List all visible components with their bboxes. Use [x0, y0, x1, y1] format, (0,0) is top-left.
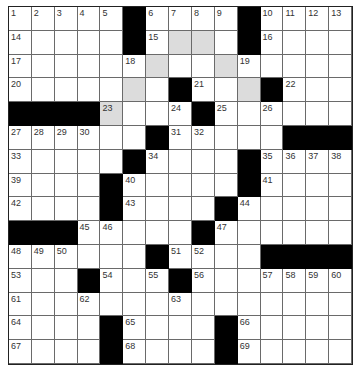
- answer-cell[interactable]: [261, 197, 284, 221]
- answer-cell[interactable]: [283, 31, 306, 55]
- answer-cell[interactable]: 6: [146, 7, 169, 31]
- answer-cell[interactable]: 42: [9, 197, 32, 221]
- answer-cell[interactable]: [283, 221, 306, 245]
- answer-cell[interactable]: [329, 55, 352, 79]
- answer-cell[interactable]: 50: [55, 245, 78, 269]
- answer-cell[interactable]: [215, 269, 238, 293]
- answer-cell[interactable]: [306, 55, 329, 79]
- answer-cell[interactable]: [238, 293, 261, 317]
- answer-cell[interactable]: 55: [146, 269, 169, 293]
- answer-cell[interactable]: 40: [123, 174, 146, 198]
- answer-cell[interactable]: [55, 316, 78, 340]
- shaded-answer-cell[interactable]: [123, 78, 146, 102]
- answer-cell[interactable]: [329, 316, 352, 340]
- answer-cell[interactable]: [192, 150, 215, 174]
- answer-cell[interactable]: 43: [123, 197, 146, 221]
- answer-cell[interactable]: [55, 150, 78, 174]
- answer-cell[interactable]: 16: [261, 31, 284, 55]
- answer-cell[interactable]: [123, 293, 146, 317]
- answer-cell[interactable]: 11: [283, 7, 306, 31]
- answer-cell[interactable]: [146, 78, 169, 102]
- answer-cell[interactable]: 49: [32, 245, 55, 269]
- answer-cell[interactable]: [169, 340, 192, 364]
- answer-cell[interactable]: [32, 55, 55, 79]
- answer-cell[interactable]: [169, 150, 192, 174]
- answer-cell[interactable]: [215, 293, 238, 317]
- answer-cell[interactable]: 35: [261, 150, 284, 174]
- answer-cell[interactable]: [32, 316, 55, 340]
- answer-cell[interactable]: 27: [9, 126, 32, 150]
- answer-cell[interactable]: 3: [55, 7, 78, 31]
- answer-cell[interactable]: [55, 55, 78, 79]
- answer-cell[interactable]: 59: [306, 269, 329, 293]
- answer-cell[interactable]: 38: [329, 150, 352, 174]
- answer-cell[interactable]: [100, 150, 123, 174]
- answer-cell[interactable]: [283, 55, 306, 79]
- answer-cell[interactable]: [215, 126, 238, 150]
- answer-cell[interactable]: [238, 245, 261, 269]
- answer-cell[interactable]: 29: [55, 126, 78, 150]
- answer-cell[interactable]: 5: [100, 7, 123, 31]
- answer-cell[interactable]: [215, 150, 238, 174]
- answer-cell[interactable]: [329, 102, 352, 126]
- answer-cell[interactable]: 48: [9, 245, 32, 269]
- answer-cell[interactable]: [123, 126, 146, 150]
- answer-cell[interactable]: 68: [123, 340, 146, 364]
- answer-cell[interactable]: [283, 340, 306, 364]
- answer-cell[interactable]: [329, 221, 352, 245]
- answer-cell[interactable]: 12: [306, 7, 329, 31]
- answer-cell[interactable]: [55, 293, 78, 317]
- answer-cell[interactable]: 21: [192, 78, 215, 102]
- answer-cell[interactable]: [78, 340, 101, 364]
- answer-cell[interactable]: [283, 174, 306, 198]
- answer-cell[interactable]: 53: [9, 269, 32, 293]
- answer-cell[interactable]: [55, 174, 78, 198]
- answer-cell[interactable]: 20: [9, 78, 32, 102]
- answer-cell[interactable]: [78, 316, 101, 340]
- answer-cell[interactable]: [78, 31, 101, 55]
- answer-cell[interactable]: 4: [78, 7, 101, 31]
- answer-cell[interactable]: [146, 102, 169, 126]
- answer-cell[interactable]: [32, 31, 55, 55]
- answer-cell[interactable]: 45: [78, 221, 101, 245]
- answer-cell[interactable]: [329, 31, 352, 55]
- answer-cell[interactable]: [261, 293, 284, 317]
- answer-cell[interactable]: [78, 55, 101, 79]
- answer-cell[interactable]: [283, 102, 306, 126]
- answer-cell[interactable]: 60: [329, 269, 352, 293]
- answer-cell[interactable]: [78, 78, 101, 102]
- answer-cell[interactable]: [146, 340, 169, 364]
- answer-cell[interactable]: [100, 293, 123, 317]
- answer-cell[interactable]: [215, 245, 238, 269]
- answer-cell[interactable]: [55, 197, 78, 221]
- answer-cell[interactable]: [169, 197, 192, 221]
- answer-cell[interactable]: 25: [215, 102, 238, 126]
- answer-cell[interactable]: 14: [9, 31, 32, 55]
- answer-cell[interactable]: [32, 150, 55, 174]
- answer-cell[interactable]: 64: [9, 316, 32, 340]
- answer-cell[interactable]: 47: [215, 221, 238, 245]
- answer-cell[interactable]: [261, 221, 284, 245]
- answer-cell[interactable]: 62: [78, 293, 101, 317]
- answer-cell[interactable]: [123, 269, 146, 293]
- answer-cell[interactable]: [146, 221, 169, 245]
- answer-cell[interactable]: [192, 174, 215, 198]
- shaded-answer-cell[interactable]: [215, 55, 238, 79]
- answer-cell[interactable]: [329, 174, 352, 198]
- answer-cell[interactable]: [169, 55, 192, 79]
- answer-cell[interactable]: 18: [123, 55, 146, 79]
- answer-cell[interactable]: [329, 340, 352, 364]
- answer-cell[interactable]: [238, 221, 261, 245]
- answer-cell[interactable]: [55, 269, 78, 293]
- answer-cell[interactable]: [55, 31, 78, 55]
- answer-cell[interactable]: [306, 316, 329, 340]
- answer-cell[interactable]: 28: [32, 126, 55, 150]
- answer-cell[interactable]: [146, 174, 169, 198]
- answer-cell[interactable]: 54: [100, 269, 123, 293]
- answer-cell[interactable]: [329, 293, 352, 317]
- answer-cell[interactable]: [192, 293, 215, 317]
- answer-cell[interactable]: 63: [169, 293, 192, 317]
- answer-cell[interactable]: 66: [238, 316, 261, 340]
- answer-cell[interactable]: [32, 293, 55, 317]
- answer-cell[interactable]: [100, 78, 123, 102]
